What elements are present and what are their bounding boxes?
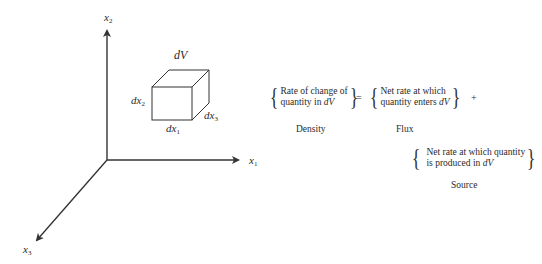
open-brace: { [270,84,279,110]
x3-axis [37,160,107,240]
density-caption: Density [296,124,326,134]
close-brace: } [527,145,536,171]
x3-axis-label: x3 [23,244,31,257]
density-term: { Rate of change of quantity in dV } [268,84,360,110]
x2-axis-label: x2 [104,12,112,25]
cube-edge-dx3-label: dx3 [204,110,218,123]
density-text: Rate of change of quantity in dV [280,86,347,108]
plus-sign: + [471,92,477,103]
close-brace: } [451,84,460,110]
source-text: Net rate at which quantity is produced i… [426,147,525,169]
cube-volume-label: dV [174,49,187,61]
cube-edge-dx2-label: dx2 [131,95,145,108]
open-brace: { [370,84,379,110]
flux-text: Net rate at which quantity enters dV [380,86,449,108]
volume-element-cube [152,70,209,120]
cube-edge-dx1-label: dx1 [166,123,180,136]
open-brace: { [412,145,421,171]
flux-caption: Flux [396,124,413,134]
x1-axis-label: x1 [249,155,257,168]
flux-term: { Net rate at which quantity enters dV } [368,84,462,110]
coordinate-axes-diagram [0,0,542,264]
source-caption: Source [451,180,477,190]
source-term: { Net rate at which quantity is produced… [410,145,538,171]
equals-sign: = [356,92,362,103]
